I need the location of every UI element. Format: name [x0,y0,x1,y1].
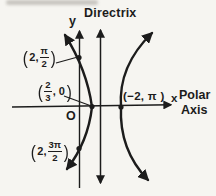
open-paren: ( [31,143,36,160]
close-paren: ) [64,143,69,160]
origin-label: O [66,110,76,123]
point-dot-2-thirds-0 [89,104,94,109]
point-label-2-thirds-0: ( 2 3 , 0 ) [37,80,72,103]
fraction-numerator: π [40,46,49,58]
fraction-denominator: 2 [52,153,57,163]
point-dot-2-pi-over-2 [76,55,81,60]
point-dot-neg2-pi [118,104,123,109]
point-dot-2-3pi-over-2 [76,146,81,151]
open-paren: ( [38,83,43,100]
y-axis-label: y [69,15,76,28]
fraction-numerator: 2 [44,80,51,92]
point-label-neg2-pi: (−2, π ) [123,91,165,103]
polar-axis-label-word1: Polar [179,89,210,102]
right-hyperbola-branch [121,33,152,180]
directrix-label: Directrix [84,7,137,20]
point-value-prefix: 2, [29,51,38,63]
close-paren: ) [50,49,55,66]
fraction-denominator: 3 [45,93,50,103]
point-label-2-3pi-over-2: ( 2, 3π 2 ) [30,140,69,163]
polar-axis-label-word2: Axis [181,104,207,117]
fraction-3pi-over-2: 3π 2 [48,140,63,163]
fraction-denominator: 2 [42,59,47,69]
x-axis-label: x [171,93,177,105]
fraction-numerator: 3π [48,140,63,152]
fraction-2-over-3: 2 3 [44,80,51,103]
polar-conic-figure: Directrix y x Polar Axis O ( 2, π 2 ) ( … [0,0,216,196]
leader-line-top-point [56,58,76,64]
close-paren: ) [66,83,71,100]
point-value-prefix: 2, [37,145,46,157]
point-value-suffix: , 0 [53,85,65,97]
point-label-2-pi-over-2: ( 2, π 2 ) [22,46,56,69]
open-paren: ( [23,49,28,66]
fraction-pi-over-2: π 2 [40,46,49,69]
